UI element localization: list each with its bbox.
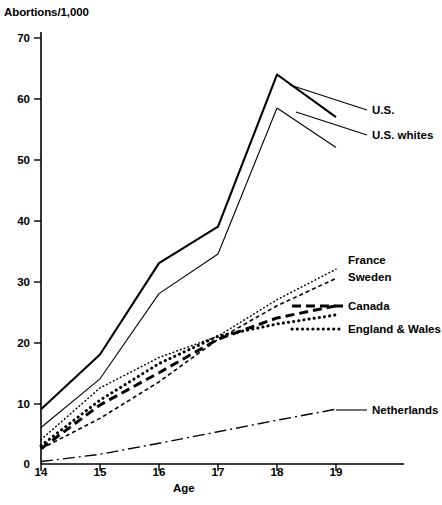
x-axis-ticks [41, 464, 336, 471]
y-axis-ticks [34, 38, 41, 404]
series-line-sweden [41, 278, 336, 448]
series-line-canada [41, 306, 336, 449]
abortion-rate-line-chart: Abortions/1,000 Age 70 60 50 40 30 20 10… [0, 0, 442, 505]
series-group [41, 75, 336, 462]
leader-lines [290, 85, 367, 410]
series-line-us [41, 75, 336, 410]
leader-line-us-whites [296, 112, 367, 135]
series-line-us-whites [41, 108, 336, 428]
plot-area [0, 0, 442, 505]
leader-line-us [290, 85, 367, 110]
series-line-netherlands [41, 409, 336, 461]
